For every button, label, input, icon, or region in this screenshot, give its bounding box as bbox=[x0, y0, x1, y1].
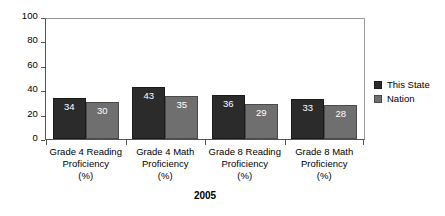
bar-nation[interactable]: 29 bbox=[245, 104, 278, 139]
category-label-line: Proficiency bbox=[46, 158, 126, 170]
category-label-grade-8-reading: Grade 8 Reading Proficiency (%) bbox=[205, 146, 285, 186]
bar-pair: 34 30 bbox=[46, 18, 126, 139]
x-axis-tick-mark bbox=[46, 140, 47, 145]
bar-value-label: 33 bbox=[292, 103, 323, 113]
bar-this-state[interactable]: 34 bbox=[53, 98, 86, 139]
bar-group-grade-8-math: 33 28 bbox=[285, 18, 365, 139]
category-label-line: Grade 4 Math bbox=[126, 146, 206, 158]
bar-nation[interactable]: 30 bbox=[86, 102, 119, 139]
bar-this-state[interactable]: 36 bbox=[212, 95, 245, 139]
bar-group-grade-4-reading: 34 30 bbox=[46, 18, 126, 139]
bar-nation[interactable]: 28 bbox=[324, 105, 357, 139]
category-label-line: (%) bbox=[205, 170, 285, 182]
bar-value-label: 30 bbox=[87, 106, 118, 116]
legend-swatch-icon bbox=[374, 95, 382, 103]
legend-item-nation[interactable]: Nation bbox=[374, 93, 444, 105]
y-axis-tick-label: 20 bbox=[27, 109, 38, 119]
bar-value-label: 28 bbox=[325, 109, 356, 119]
legend: This State Nation bbox=[374, 79, 444, 107]
category-label-line: Grade 8 Reading bbox=[205, 146, 285, 158]
category-label-line: (%) bbox=[46, 170, 126, 182]
y-axis-tick-label: 0 bbox=[33, 133, 38, 143]
x-axis-ticks bbox=[46, 140, 364, 145]
bar-groups: 34 30 43 35 36 bbox=[46, 18, 364, 139]
category-label-line: Proficiency bbox=[285, 158, 365, 170]
category-label-grade-8-math: Grade 8 Math Proficiency (%) bbox=[285, 146, 365, 186]
legend-swatch-icon bbox=[374, 81, 382, 89]
x-axis-category-labels: Grade 4 Reading Proficiency (%) Grade 4 … bbox=[46, 146, 364, 186]
category-label-line: (%) bbox=[285, 170, 365, 182]
y-axis-tick-mark bbox=[41, 140, 45, 141]
legend-label: Nation bbox=[387, 94, 414, 104]
category-label-line: Proficiency bbox=[126, 158, 206, 170]
y-axis-tick-label: 100 bbox=[22, 11, 38, 21]
y-axis: 100 80 60 40 20 0 bbox=[0, 18, 45, 140]
bar-value-label: 35 bbox=[166, 100, 197, 110]
bar-value-label: 43 bbox=[133, 91, 164, 101]
legend-item-this-state[interactable]: This State bbox=[374, 79, 444, 91]
bar-chart: 100 80 60 40 20 0 34 bbox=[0, 0, 445, 216]
x-axis-tick-mark bbox=[205, 140, 206, 145]
category-label-line: Grade 4 Reading bbox=[46, 146, 126, 158]
category-label-line: Proficiency bbox=[205, 158, 285, 170]
bar-value-label: 34 bbox=[54, 102, 85, 112]
x-axis-title: 2005 bbox=[46, 190, 364, 201]
category-label-line: (%) bbox=[126, 170, 206, 182]
x-axis-tick-mark bbox=[126, 140, 127, 145]
y-axis-tick-label: 40 bbox=[27, 84, 38, 94]
bar-nation[interactable]: 35 bbox=[165, 96, 198, 139]
x-axis-tick-mark bbox=[285, 140, 286, 145]
bar-this-state[interactable]: 33 bbox=[291, 99, 324, 139]
bar-value-label: 36 bbox=[213, 99, 244, 109]
y-axis-tick-label: 80 bbox=[27, 35, 38, 45]
y-axis-tick-label: 60 bbox=[27, 60, 38, 70]
category-label-line: Grade 8 Math bbox=[285, 146, 365, 158]
category-label-grade-4-reading: Grade 4 Reading Proficiency (%) bbox=[46, 146, 126, 186]
bar-this-state[interactable]: 43 bbox=[132, 87, 165, 139]
bar-pair: 43 35 bbox=[126, 18, 206, 139]
legend-label: This State bbox=[387, 80, 430, 90]
bar-group-grade-4-math: 43 35 bbox=[126, 18, 206, 139]
bar-value-label: 29 bbox=[246, 108, 277, 118]
category-label-grade-4-math: Grade 4 Math Proficiency (%) bbox=[126, 146, 206, 186]
bar-group-grade-8-reading: 36 29 bbox=[205, 18, 285, 139]
x-axis-tick-mark bbox=[363, 140, 364, 145]
bar-pair: 36 29 bbox=[205, 18, 285, 139]
bar-pair: 33 28 bbox=[285, 18, 365, 139]
